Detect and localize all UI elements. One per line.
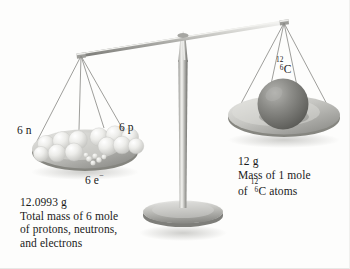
isotope-numbers: 126 (276, 59, 284, 74)
right-caption-line-2: Mass of 1 mole (238, 169, 311, 183)
right-pan-caption: 12 g Mass of 1 mole of 126C atoms (238, 155, 311, 199)
caption-isotope-notation: 126 (251, 182, 259, 199)
mole-balance-figure: 6 n 6 p 6 e− 126C 12.0993 g Total mass o… (0, 0, 350, 269)
label-electron-charge-superscript: − (99, 171, 104, 180)
carbon-12-sphere (258, 79, 310, 130)
right-caption-line-3-suffix: C atoms (259, 185, 298, 197)
isotope-mass-number: 12 (276, 56, 284, 63)
isotope-atomic-number: 6 (276, 64, 284, 71)
label-6-electrons-value: 6 e (85, 174, 99, 186)
left-caption-line-4: and electrons (20, 237, 118, 251)
left-caption-line-3: of protons, neutrons, (20, 223, 118, 237)
label-carbon-12-isotope: 126C (276, 59, 292, 78)
caption-isotope-numbers: 126 (251, 182, 259, 197)
balance-column (178, 31, 188, 208)
left-caption-line-2: Total mass of 6 mole (20, 210, 118, 224)
caption-isotope-mass-number: 12 (251, 178, 259, 185)
right-caption-line-3-prefix: of (238, 185, 251, 197)
right-caption-line-3: of 126C atoms (238, 182, 311, 199)
label-6-protons: 6 p (119, 121, 134, 135)
left-pan-caption: 12.0993 g Total mass of 6 mole of proton… (20, 196, 118, 250)
isotope-notation: 126C (276, 60, 292, 77)
label-6-electrons: 6 e− (85, 172, 104, 187)
label-6-neutrons: 6 n (17, 124, 32, 138)
right-caption-line-1: 12 g (238, 155, 311, 169)
caption-isotope-atomic-number: 6 (251, 186, 259, 193)
isotope-element-symbol: C (284, 63, 292, 75)
left-caption-line-1: 12.0993 g (20, 196, 118, 210)
